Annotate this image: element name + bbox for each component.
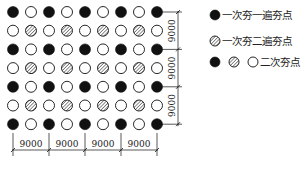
filled-point-icon (210, 57, 220, 67)
open-point-icon (44, 63, 55, 74)
hatched-point-icon (26, 25, 37, 36)
legend-item: 一次夯二遍夯点 (210, 35, 292, 47)
open-point-icon (98, 7, 109, 18)
filled-point-icon (116, 81, 127, 92)
hatched-point-icon (134, 100, 145, 111)
open-point-icon (62, 7, 73, 18)
open-point-icon (116, 63, 127, 74)
open-point-icon (152, 63, 163, 74)
filled-point-icon (44, 119, 55, 130)
filled-point-icon (44, 7, 55, 18)
legend-label: 二次夯点 (260, 56, 300, 68)
open-point-icon (80, 63, 91, 74)
open-point-icon (26, 119, 37, 130)
filled-point-icon (8, 44, 19, 55)
filled-point-icon (116, 7, 127, 18)
open-point-icon (152, 100, 163, 111)
open-point-icon (98, 119, 109, 130)
hatched-point-icon (134, 25, 145, 36)
hatched-point-icon (62, 100, 73, 111)
open-point-icon (62, 119, 73, 130)
open-point-icon (8, 100, 19, 111)
open-point-icon (134, 119, 145, 130)
vertical-dimension-label: 9000 (167, 19, 177, 42)
filled-point-icon (8, 81, 19, 92)
legend-label: 一次夯二遍夯点 (222, 35, 292, 47)
compaction-layout-diagram: 9000900090009000900090009000 一次夯一遍夯点一次夯二… (0, 0, 307, 171)
filled-point-icon (210, 10, 220, 20)
filled-point-icon (80, 7, 91, 18)
open-point-icon (8, 25, 19, 36)
open-point-icon (26, 81, 37, 92)
filled-point-icon (8, 7, 19, 18)
open-point-icon (80, 25, 91, 36)
hatched-point-icon (98, 100, 109, 111)
open-point-icon (98, 44, 109, 55)
hatched-point-icon (62, 25, 73, 36)
open-point-icon (152, 25, 163, 36)
filled-point-icon (80, 119, 91, 130)
legend-item: 二次夯点 (210, 56, 300, 68)
open-point-icon (8, 63, 19, 74)
open-point-icon (26, 44, 37, 55)
open-point-icon (98, 81, 109, 92)
hatched-point-icon (26, 100, 37, 111)
legend-item: 一次夯一遍夯点 (210, 9, 292, 21)
filled-point-icon (44, 81, 55, 92)
hatched-point-icon (210, 36, 220, 46)
horizontal-dimension-label: 9000 (20, 139, 43, 149)
filled-point-icon (44, 44, 55, 55)
horizontal-dimension-label: 9000 (56, 139, 79, 149)
open-point-icon (134, 81, 145, 92)
open-point-icon (26, 7, 37, 18)
filled-point-icon (116, 119, 127, 130)
filled-point-icon (8, 119, 19, 130)
open-point-icon (248, 57, 258, 67)
legend-label: 一次夯一遍夯点 (222, 9, 292, 21)
hatched-point-icon (98, 63, 109, 74)
open-point-icon (134, 44, 145, 55)
horizontal-dimension-label: 9000 (128, 139, 151, 149)
hatched-point-icon (26, 63, 37, 74)
filled-point-icon (80, 81, 91, 92)
vertical-dimension-label: 9000 (167, 56, 177, 79)
vertical-dimension-label: 9000 (167, 94, 177, 117)
hatched-point-icon (62, 63, 73, 74)
open-point-icon (116, 25, 127, 36)
compaction-point-grid (8, 7, 163, 130)
filled-point-icon (116, 44, 127, 55)
legend: 一次夯一遍夯点一次夯二遍夯点二次夯点 (210, 9, 300, 68)
hatched-point-icon (134, 63, 145, 74)
open-point-icon (62, 44, 73, 55)
open-point-icon (62, 81, 73, 92)
horizontal-dimension-label: 9000 (92, 139, 115, 149)
open-point-icon (44, 25, 55, 36)
hatched-point-icon (229, 57, 239, 67)
hatched-point-icon (98, 25, 109, 36)
open-point-icon (116, 100, 127, 111)
filled-point-icon (80, 44, 91, 55)
open-point-icon (80, 100, 91, 111)
open-point-icon (44, 100, 55, 111)
open-point-icon (134, 7, 145, 18)
